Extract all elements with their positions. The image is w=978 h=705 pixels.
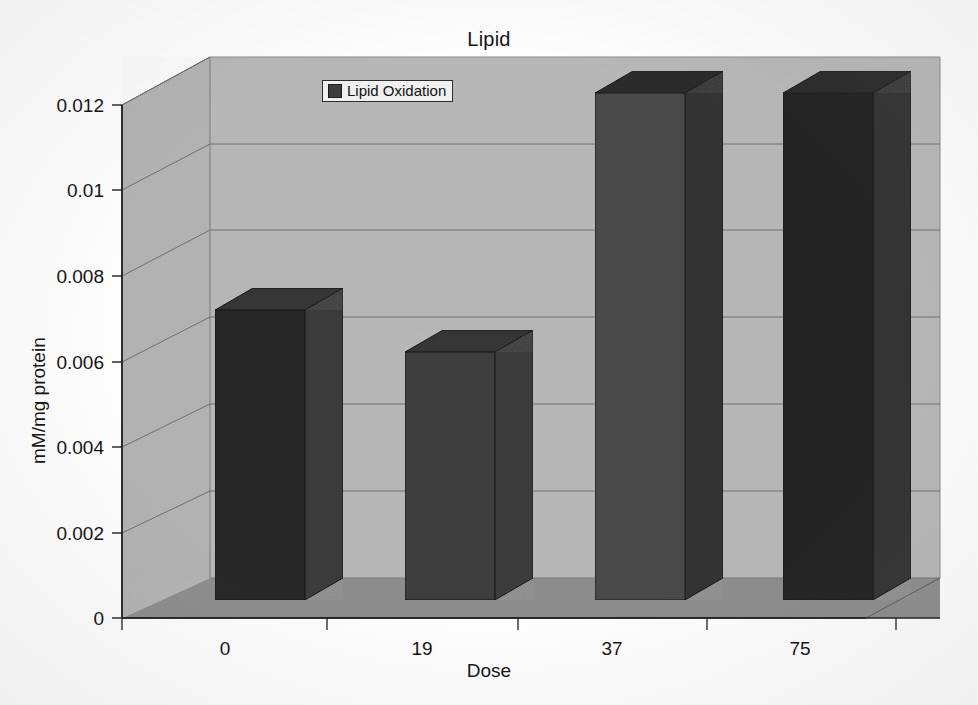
plot-left-wall (122, 57, 210, 618)
chart-legend[interactable]: Lipid Oxidation (322, 80, 453, 102)
legend-swatch-icon (328, 84, 342, 98)
bar-column[interactable] (783, 71, 911, 600)
bar-column[interactable] (215, 288, 343, 600)
bar-column[interactable] (405, 330, 533, 600)
y-tick-label: 0.008 (56, 266, 104, 287)
x-tick-label: 75 (789, 638, 810, 659)
y-tick-label: 0.012 (56, 95, 104, 116)
y-tick-label: 0.01 (67, 180, 104, 201)
y-tick-label: 0.006 (56, 352, 104, 373)
x-tick-label: 0 (220, 638, 231, 659)
x-axis: 0 19 37 75 (122, 618, 940, 659)
y-tick-label: 0 (93, 608, 104, 629)
y-tick-label: 0.002 (56, 523, 104, 544)
y-axis: 0.012 0.01 0.008 0.006 0.004 0.002 0 (56, 95, 122, 629)
x-tick-label: 19 (411, 638, 432, 659)
chart-plot-area: 0.012 0.01 0.008 0.006 0.004 0.002 0 (0, 0, 978, 705)
bar-column[interactable] (595, 71, 723, 600)
x-tick-label: 37 (601, 638, 622, 659)
y-tick-label: 0.004 (56, 437, 104, 458)
chart-root: Lipid (0, 0, 978, 705)
legend-series-label: Lipid Oxidation (347, 83, 446, 98)
